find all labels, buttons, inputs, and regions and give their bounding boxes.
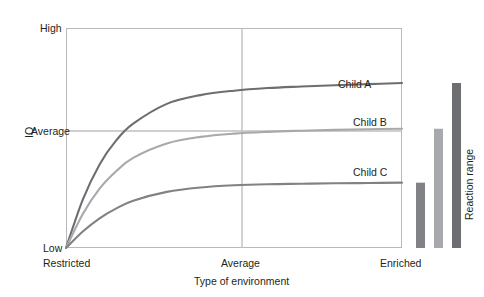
- curve-child-c: [66, 183, 402, 248]
- curve-child-a: [66, 83, 402, 248]
- reaction-range-bar-child-a: [452, 83, 461, 248]
- curve-child-b: [66, 129, 402, 248]
- y-tick-label-low: Low: [43, 243, 62, 254]
- x-axis-title: Type of environment: [194, 276, 289, 287]
- x-tick-label-enriched: Enriched: [380, 258, 421, 269]
- chart-canvas: [0, 0, 484, 297]
- x-tick-label-average: Average: [221, 258, 260, 269]
- reaction-range-bar-child-c: [416, 183, 425, 248]
- y-axis-title: IQ: [24, 127, 35, 138]
- reaction-range-bar-child-b: [434, 129, 443, 248]
- reaction-range-label: Reaction range: [464, 149, 475, 220]
- series-label-child-a: Child A: [338, 79, 371, 90]
- y-tick-label-average: Average: [31, 126, 70, 137]
- gridlines: [66, 28, 402, 248]
- series-label-child-b: Child B: [353, 117, 387, 128]
- series-curves: [66, 83, 402, 248]
- chart-figure: High Average Low IQ Restricted Average E…: [0, 0, 484, 297]
- reaction-range-bars: [416, 83, 461, 248]
- x-tick-label-restricted: Restricted: [43, 258, 90, 269]
- y-tick-label-high: High: [40, 23, 62, 34]
- series-label-child-c: Child C: [353, 167, 387, 178]
